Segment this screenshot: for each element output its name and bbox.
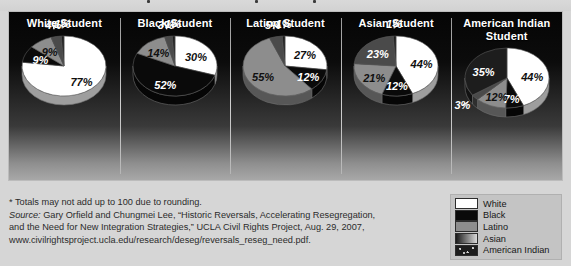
footnotes-block: * Totals may not add up to 100 due to ro… [9, 196, 434, 246]
legend-label-white: White [483, 199, 507, 209]
pie-value-label: 14% [147, 47, 169, 59]
pie-label-leader-line [173, 25, 174, 29]
pie-value-label: 21% [363, 72, 385, 84]
source-line-3: www.civilrightsproject.ucla.edu/research… [9, 234, 434, 247]
pie-value-label: 9% [42, 46, 58, 58]
pie-chart-2: 30%52%14%3%1% [120, 30, 231, 181]
legend-item-black: Black [455, 210, 557, 222]
source-text-1: Gary Orfield and Chungmei Lee, “Historic… [41, 210, 375, 220]
source-line-2: and the Need for New Integration Strateg… [9, 221, 434, 234]
pie-value-label: 12% [386, 80, 408, 92]
pie-value-label: 30% [185, 51, 207, 63]
chart-column-5: American Indian Student44%7%12%3%35% [451, 12, 562, 180]
legend-label-asian: Asian [483, 234, 506, 244]
legend-item-latino: Latino [455, 221, 557, 233]
legend-item-white: White [455, 198, 557, 210]
pie-svg-1 [16, 30, 112, 106]
legend-swatch-american_indian [455, 245, 478, 256]
pie-value-label: 12% [485, 91, 507, 103]
legend-swatch-white [455, 198, 478, 209]
pie-value-label: 44% [411, 58, 433, 70]
footnote-rounding: * Totals may not add up to 100 due to ro… [9, 196, 434, 209]
legend-swatch-latino [455, 221, 478, 232]
pie-chart-panel: White Student77%9%9%4%1%Black Student30%… [9, 12, 562, 180]
pie-chart-3: 27%12%55%5%1% [230, 30, 341, 181]
legend-swatch-black [455, 210, 478, 221]
legend-item-american_indian: American Indian [455, 244, 557, 256]
pie-value-label: 55% [252, 71, 274, 83]
chart-title-5: American Indian Student [451, 17, 562, 42]
chart-column-4: Asian Student44%12%21%23%1% [341, 12, 452, 180]
chart-column-3: Latino Student27%12%55%5%1% [230, 12, 341, 180]
source-line-1: Source: Gary Orfield and Chungmei Lee, “… [9, 209, 434, 222]
pie-value-label: 52% [154, 79, 176, 91]
chart-column-2: Black Student30%52%14%3%1% [120, 12, 231, 180]
source-label: Source: [9, 210, 41, 220]
legend-label-latino: Latino [483, 222, 508, 232]
chart-column-1: White Student77%9%9%4%1% [9, 12, 120, 180]
pie-svg-3 [237, 30, 333, 106]
pie-chart-4: 44%12%21%23%1% [341, 30, 452, 181]
pie-value-label: 27% [294, 49, 316, 61]
pie-value-label: 44% [521, 71, 543, 83]
legend-item-asian: Asian [455, 233, 557, 245]
pie-chart-columns: White Student77%9%9%4%1%Black Student30%… [9, 12, 562, 180]
pie-label-leader-line [283, 25, 284, 29]
pie-value-label: 23% [367, 48, 389, 60]
legend-box: WhiteBlackLatinoAsianAmerican Indian [450, 194, 562, 260]
legend-swatch-asian [455, 233, 478, 244]
pie-value-label: 77% [71, 76, 93, 88]
pie-chart-5: 44%7%12%3%35% [451, 42, 562, 180]
pie-svg-2 [127, 30, 223, 106]
legend-label-black: Black [483, 210, 505, 220]
legend-label-american_indian: American Indian [483, 245, 549, 255]
pie-value-label: 35% [473, 66, 495, 78]
cropped-headline-remnant [0, 0, 571, 11]
pie-value-label: 12% [297, 71, 319, 83]
pie-chart-1: 77%9%9%4%1% [9, 30, 120, 181]
